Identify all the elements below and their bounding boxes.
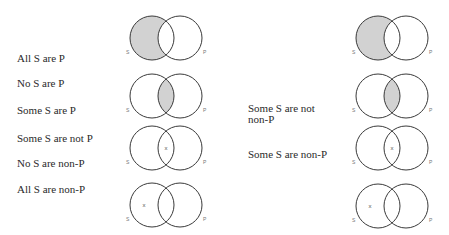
circle-s bbox=[130, 183, 174, 227]
venn-diagram-right-3: SPx bbox=[352, 126, 433, 170]
venn-diagram-left-2: SP bbox=[126, 74, 207, 118]
label-s: S bbox=[126, 49, 130, 55]
venn-diagram-right-4: SPx bbox=[352, 184, 433, 228]
label-s: S bbox=[126, 216, 130, 222]
circle-s bbox=[356, 184, 400, 228]
label-s: S bbox=[352, 49, 356, 55]
label-p: P bbox=[429, 217, 433, 223]
label-p: P bbox=[203, 49, 207, 55]
label-p: P bbox=[203, 107, 207, 113]
label-p: P bbox=[429, 49, 433, 55]
venn-diagram-right-2: SP bbox=[352, 74, 433, 118]
label-p: P bbox=[429, 107, 433, 113]
existence-mark-x: x bbox=[165, 145, 168, 151]
circle-p bbox=[158, 183, 202, 227]
venn-diagram-left-4: SPx bbox=[126, 183, 207, 227]
venn-diagram-right-1: SP bbox=[352, 16, 433, 60]
circle-p bbox=[384, 184, 428, 228]
existence-mark-x: x bbox=[391, 145, 394, 151]
label-p: P bbox=[429, 159, 433, 165]
label-s: S bbox=[126, 159, 130, 165]
venn-diagrams: SPSPSPxSPxSPSPSPxSPx bbox=[0, 0, 449, 235]
label-s: S bbox=[352, 107, 356, 113]
venn-diagram-left-3: SPx bbox=[126, 126, 207, 170]
venn-diagram-left-1: SP bbox=[126, 16, 207, 60]
label-s: S bbox=[352, 159, 356, 165]
label-s: S bbox=[126, 107, 130, 113]
label-s: S bbox=[352, 217, 356, 223]
existence-mark-x: x bbox=[369, 203, 372, 209]
existence-mark-x: x bbox=[143, 202, 146, 208]
label-p: P bbox=[203, 159, 207, 165]
venn-diagram-figure: All S are P No S are P Some S are P Some… bbox=[0, 0, 449, 235]
label-p: P bbox=[203, 216, 207, 222]
